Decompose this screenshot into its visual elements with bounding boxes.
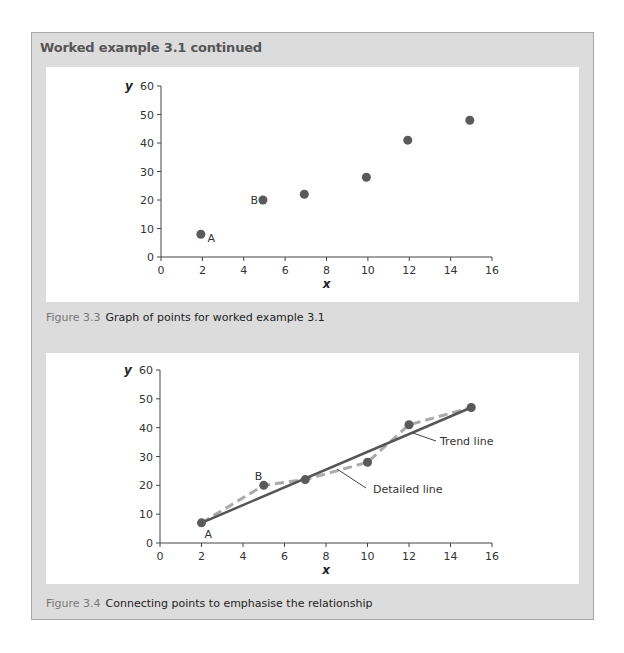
x-tick-label: 4 <box>240 264 247 277</box>
figure-label: Figure 3.3 <box>46 311 101 324</box>
x-tick-label: 6 <box>281 550 288 563</box>
y-tick-label: 0 <box>147 251 154 264</box>
detailed-line-label: Detailed line <box>373 483 443 496</box>
figure-3-4-caption: Figure 3.4Connecting points to emphasise… <box>46 597 373 610</box>
data-point <box>258 196 267 205</box>
detailed-line-callout <box>337 469 366 488</box>
x-tick-label: 0 <box>157 550 164 563</box>
y-tick-label: 60 <box>140 80 154 93</box>
trend-line-callout <box>413 433 436 441</box>
y-tick-label: 10 <box>139 508 153 521</box>
y-tick-label: 60 <box>139 364 153 377</box>
data-point <box>467 403 476 412</box>
point-label-a: A <box>205 528 213 541</box>
point-label-b: B <box>250 194 258 207</box>
y-tick-label: 0 <box>146 537 153 550</box>
data-point <box>197 518 206 527</box>
y-tick-label: 50 <box>139 393 153 406</box>
x-tick-label: 8 <box>323 264 330 277</box>
x-axis-label: x <box>322 277 332 291</box>
x-tick-label: 10 <box>361 264 375 277</box>
y-tick-label: 40 <box>139 422 153 435</box>
x-tick-label: 12 <box>402 264 416 277</box>
x-axis-label: x <box>321 563 331 577</box>
figure-3-3-panel: 01020304050600246810121416yxAB <box>46 67 579 302</box>
y-tick-label: 20 <box>140 194 154 207</box>
data-point <box>403 136 412 145</box>
figure-caption-text: Graph of points for worked example 3.1 <box>106 311 325 324</box>
x-tick-label: 14 <box>444 550 458 563</box>
figure-caption-text: Connecting points to emphasise the relat… <box>106 597 373 610</box>
y-tick-label: 30 <box>139 451 153 464</box>
x-tick-label: 4 <box>240 550 247 563</box>
data-point <box>300 190 309 199</box>
point-label-a: A <box>207 232 215 245</box>
box-title: Worked example 3.1 continued <box>40 40 262 55</box>
y-tick-label: 50 <box>140 109 154 122</box>
data-point <box>362 173 371 182</box>
y-tick-label: 10 <box>140 223 154 236</box>
x-tick-label: 16 <box>485 264 499 277</box>
trend-line-label: Trend line <box>439 435 494 448</box>
data-point <box>196 230 205 239</box>
x-tick-label: 0 <box>158 264 165 277</box>
figure-3-3-caption: Figure 3.3Graph of points for worked exa… <box>46 311 325 324</box>
figure-3-4-panel: 01020304050600246810121416yxABTrend line… <box>46 353 579 584</box>
y-tick-label: 40 <box>140 137 154 150</box>
figure-label: Figure 3.4 <box>46 597 101 610</box>
point-label-b: B <box>255 470 263 483</box>
x-tick-label: 8 <box>323 550 330 563</box>
data-point <box>301 475 310 484</box>
y-tick-label: 30 <box>140 166 154 179</box>
x-tick-label: 6 <box>282 264 289 277</box>
trend-line <box>202 407 472 522</box>
x-tick-label: 14 <box>444 264 458 277</box>
y-tick-label: 20 <box>139 479 153 492</box>
y-axis-label: y <box>124 363 133 377</box>
x-tick-label: 2 <box>198 550 205 563</box>
scatter-chart: 01020304050600246810121416yxAB <box>46 67 579 302</box>
x-tick-label: 10 <box>361 550 375 563</box>
line-chart: 01020304050600246810121416yxABTrend line… <box>46 353 579 584</box>
x-tick-label: 16 <box>485 550 499 563</box>
data-point <box>465 116 474 125</box>
data-point <box>405 420 414 429</box>
x-tick-label: 12 <box>402 550 416 563</box>
y-axis-label: y <box>125 79 134 93</box>
data-point <box>363 458 372 467</box>
x-tick-label: 2 <box>199 264 206 277</box>
